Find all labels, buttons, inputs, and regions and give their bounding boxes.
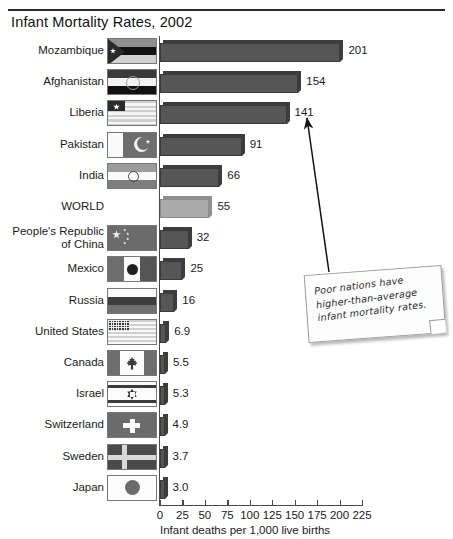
country-label: Mozambique [0,36,104,57]
bar [160,352,168,374]
table-row: Israel5.3 [0,379,453,410]
bar-value-label: 55 [217,200,230,212]
bar [160,477,168,499]
axis-tick [160,500,161,506]
bar [160,290,177,312]
callout-note-text: Poor nations have higher-than-average in… [313,270,435,325]
bar-side-face [287,102,290,124]
table-row: Mozambique201 [0,36,453,67]
switzerland-flag [107,412,157,438]
bar-face [160,230,189,249]
bar [160,134,245,156]
bar-face [160,137,242,156]
bar-side-face [189,227,192,249]
axis-tick [272,500,273,506]
bar-face [160,74,298,93]
axis-tick-label: 225 [352,509,371,521]
bar-face [160,168,219,187]
bar-side-face [165,477,168,499]
bar-face [160,417,165,436]
bar-side-face [242,134,245,156]
country-label: Pakistan [0,130,104,151]
mozambique-flag [107,38,157,64]
bar-value-label: 3.7 [173,450,189,462]
bar-side-face [298,71,301,93]
axis-tick-label: 150 [285,509,304,521]
table-row: Canada5.5 [0,348,453,379]
country-label: Japan [0,473,104,494]
axis-tick-label: 25 [176,509,189,521]
axis-tick-label: 200 [330,509,349,521]
country-label: Afghanistan [0,67,104,88]
country-label: Sweden [0,442,104,463]
country-label: Switzerland [0,410,104,431]
bar-face [160,261,182,280]
bar [160,383,168,405]
india-flag [107,163,157,189]
bar-value-label: 5.3 [173,387,189,399]
bar-value-label: 154 [306,75,325,87]
infant-mortality-chart-figure: Infant Mortality Rates, 2002 Mozambique2… [0,0,453,539]
bar-side-face [165,446,168,468]
bar-value-label: 5.5 [173,356,189,368]
table-row: Switzerland4.9 [0,410,453,441]
united-states-flag [107,319,157,345]
bar-value-label: 3.0 [173,481,189,493]
table-row: People's Republic of China32 [0,223,453,254]
bar-side-face [209,196,212,218]
country-label: India [0,161,104,182]
table-row: India66 [0,161,453,192]
bar-value-label: 16 [182,294,195,306]
axis-tick-label: 175 [308,509,327,521]
bar [160,165,222,187]
axis-tick [227,500,228,506]
axis-tick [317,500,318,506]
table-row: Sweden3.7 [0,442,453,473]
bar-side-face [340,40,343,62]
note-corner-fold-icon [429,319,446,335]
bar-face [160,293,174,312]
bar-side-face [165,383,168,405]
bar-side-face [166,321,169,343]
bar-value-label: 91 [250,138,263,150]
pakistan-flag [107,132,157,158]
sweden-flag [107,444,157,470]
china-flag [107,225,157,251]
bar-face [160,105,287,124]
axis-tick [362,500,363,506]
israel-flag [107,381,157,407]
axis-tick-label: 75 [221,509,234,521]
bar-value-label: 25 [190,262,203,274]
country-label: United States [0,317,104,338]
bar-side-face [182,258,185,280]
country-label: Israel [0,379,104,400]
bar [160,102,290,124]
bar [160,414,168,436]
axis-tick [182,500,183,506]
russia-flag [107,288,157,314]
table-row: WORLD55 [0,192,453,223]
bar-face [160,43,340,62]
axis-tick [295,500,296,506]
axis-tick-label: 0 [157,509,163,521]
callout-note: Poor nations have higher-than-average in… [304,265,447,343]
country-label: Russia [0,286,104,307]
bar [160,196,212,218]
country-label: Liberia [0,98,104,119]
canada-flag [107,350,157,376]
bar [160,40,343,62]
bar-side-face [174,290,177,312]
country-label: Canada [0,348,104,369]
bar [160,71,301,93]
bar-value-label: 4.9 [173,418,189,430]
bar-side-face [165,352,168,374]
bar-side-face [219,165,222,187]
axis-tick [340,500,341,506]
mexico-flag [107,256,157,282]
bar-value-label: 66 [227,169,240,181]
japan-flag [107,475,157,501]
bar [160,258,185,280]
table-row: Pakistan91 [0,130,453,161]
bar-value-label: 6.9 [174,325,190,337]
bar-face [160,449,165,468]
